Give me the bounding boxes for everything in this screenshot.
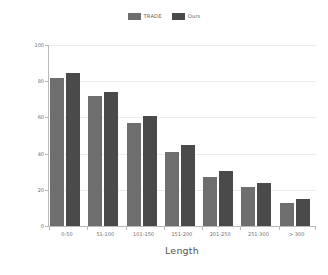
y-tick-label: 20 <box>38 187 44 192</box>
bar-group <box>163 45 201 226</box>
x-tick-mark <box>126 227 127 230</box>
y-axis-line <box>48 45 49 226</box>
bar-ours-1[interactable] <box>104 92 118 226</box>
legend-item-ours[interactable]: Ours <box>172 13 201 20</box>
x-tick-label: > 300 <box>289 232 304 237</box>
bar-trade-3[interactable] <box>165 152 179 226</box>
bar-trade-5[interactable] <box>241 187 255 226</box>
bar-group <box>125 45 163 226</box>
bar-ours-6[interactable] <box>296 199 310 226</box>
y-tick-label: 80 <box>38 79 44 84</box>
legend-label-trade: TRADE <box>144 13 162 20</box>
bar-ours-3[interactable] <box>181 145 195 226</box>
y-tick-label: 40 <box>38 151 44 156</box>
x-tick-mark <box>240 227 241 230</box>
x-tick-label: 101-150 <box>133 232 154 237</box>
legend-label-ours: Ours <box>188 13 201 20</box>
plot-area: 020406080100 <box>48 45 316 226</box>
chart-legend: TRADE Ours <box>0 13 328 20</box>
bar-ours-5[interactable] <box>257 183 271 226</box>
x-tick-label: 251-300 <box>248 232 269 237</box>
bar-ours-0[interactable] <box>66 73 80 226</box>
legend-swatch-ours <box>172 13 185 20</box>
bar-ours-4[interactable] <box>219 171 233 226</box>
x-tick-mark <box>202 227 203 230</box>
y-tick-label: 100 <box>34 43 44 48</box>
bar-group <box>48 45 86 226</box>
x-tick-label: 151-200 <box>171 232 192 237</box>
legend-item-trade[interactable]: TRADE <box>128 13 162 20</box>
bar-trade-2[interactable] <box>127 123 141 226</box>
bar-group <box>278 45 316 226</box>
x-tick-mark <box>87 227 88 230</box>
x-tick-label: 201-250 <box>210 232 231 237</box>
x-tick-mark <box>279 227 280 230</box>
x-tick-mark <box>315 227 316 230</box>
bar-trade-6[interactable] <box>280 203 294 226</box>
x-axis-ticks: 0-5051-100101-150151-200201-250251-300> … <box>48 227 316 243</box>
bar-trade-4[interactable] <box>203 177 217 226</box>
bar-group <box>201 45 239 226</box>
x-axis-title: Length <box>48 245 316 256</box>
x-tick-label: 0-50 <box>61 232 72 237</box>
x-tick-mark <box>164 227 165 230</box>
bar-group <box>239 45 277 226</box>
bar-trade-0[interactable] <box>50 78 64 226</box>
bar-chart: TRADE Ours Joint Accuracy 020406080100 0… <box>0 0 328 275</box>
legend-swatch-trade <box>128 13 141 20</box>
bars-layer <box>48 45 316 226</box>
x-tick-label: 51-100 <box>96 232 114 237</box>
bar-ours-2[interactable] <box>143 116 157 226</box>
bar-group <box>86 45 124 226</box>
x-tick-mark <box>49 227 50 230</box>
y-tick-label: 60 <box>38 115 44 120</box>
bar-trade-1[interactable] <box>88 96 102 226</box>
y-tick-label: 0 <box>41 224 44 229</box>
